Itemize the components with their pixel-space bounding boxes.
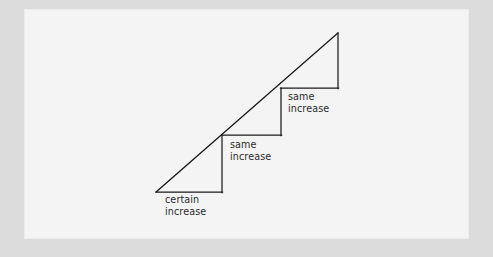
step-label-line-1: same: [230, 139, 271, 151]
step-label-same-increase-1: same increase: [230, 139, 271, 163]
step-label-line-2: increase: [165, 206, 206, 218]
step-label-certain-increase: certain increase: [165, 194, 206, 218]
slope-diagram: [0, 0, 493, 257]
step-label-line-1: same: [288, 91, 329, 103]
step-triangle-2: [222, 88, 282, 136]
step-triangle-3: [281, 33, 339, 89]
step-label-same-increase-2: same increase: [288, 91, 329, 115]
figure-root: certain increase same increase same incr…: [0, 0, 493, 257]
step-label-line-2: increase: [230, 151, 271, 163]
step-label-line-1: certain: [165, 194, 206, 206]
step-label-line-2: increase: [288, 103, 329, 115]
